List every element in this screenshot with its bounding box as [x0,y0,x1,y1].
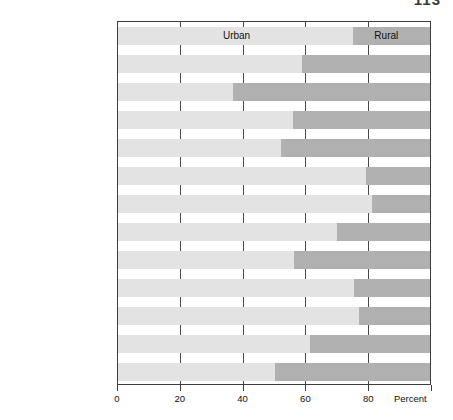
stacked-bar-chart: 113 UrbanRural 020406080 Percent Total, … [0,0,453,420]
page-number: 113 [414,0,441,8]
x-axis-title: Percent [394,393,427,404]
bar-row [118,55,430,73]
bar-row [118,139,430,157]
x-tick-0 [117,385,118,391]
bar-row [118,111,430,129]
bar-segment-rural [294,251,430,269]
bar-segment-rural [302,55,430,73]
bar-segment-rural [354,279,430,297]
bar-segment-urban [118,195,372,213]
bar-segment-rural [293,111,430,129]
x-tick-label: 60 [300,393,311,404]
bar-segment-urban [118,363,275,381]
bar-row [118,307,430,325]
bar-segment-rural [275,363,430,381]
bar-segment-rural [366,167,430,185]
bar-segment-rural [233,83,430,101]
x-tick-end [431,385,432,391]
x-tick-label: 40 [237,393,248,404]
x-tick-label: 0 [114,393,119,404]
x-tick-label: 80 [363,393,374,404]
bar-segment-urban [118,139,281,157]
bar-row [118,195,430,213]
bar-row [118,167,430,185]
bar-segment-rural [281,139,430,157]
bar-segment-rural [372,195,430,213]
x-tick-40 [243,385,244,391]
bar-segment-urban [118,251,294,269]
bar-segment-rural [337,223,430,241]
bar-segment-urban [118,307,359,325]
x-axis: 020406080 [117,385,431,391]
x-tick-20 [180,385,181,391]
bar-segment-urban [118,111,293,129]
bar-row [118,363,430,381]
bar-segment-urban [118,167,366,185]
x-tick-60 [305,385,306,391]
bar-row [118,83,430,101]
plot-area: UrbanRural [117,21,431,385]
bar-segment-rural [310,335,430,353]
series-label-rural: Rural [374,27,398,45]
x-tick-80 [368,385,369,391]
bar-segment-urban [118,83,233,101]
bar-row [118,335,430,353]
bar-segment-urban [118,223,337,241]
bar-segment-rural [359,307,430,325]
bar-segment-urban [118,279,354,297]
bar-segment-urban [118,335,310,353]
x-tick-label: 20 [175,393,186,404]
bar-row [118,251,430,269]
bar-row [118,223,430,241]
bar-row [118,279,430,297]
bar-segment-urban [118,55,302,73]
series-label-urban: Urban [223,27,250,45]
